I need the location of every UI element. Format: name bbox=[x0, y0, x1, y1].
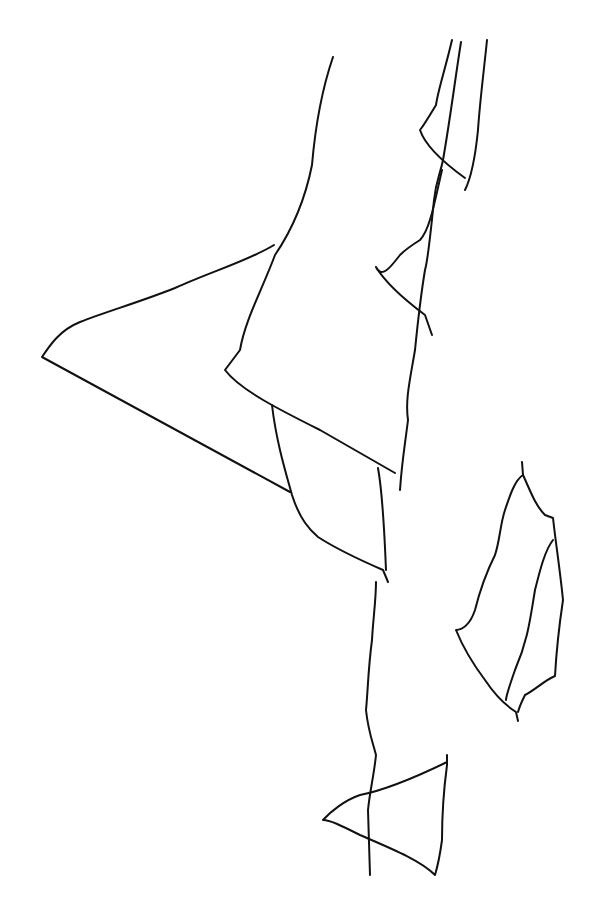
bottom-triangle bbox=[323, 755, 447, 875]
tall-band-right-edge bbox=[400, 42, 461, 490]
right-leaf-edges bbox=[506, 475, 563, 712]
tall-band bbox=[225, 57, 395, 473]
large-left-triangle bbox=[42, 245, 290, 492]
upper-right-sliver bbox=[420, 40, 487, 190]
middle-quad-right-edge bbox=[378, 468, 386, 570]
right-leaf-outer bbox=[456, 462, 523, 721]
small-mid-triangle bbox=[376, 170, 442, 335]
middle-quad bbox=[272, 405, 388, 582]
long-wavy-line bbox=[366, 582, 376, 875]
line-drawing bbox=[0, 0, 607, 904]
